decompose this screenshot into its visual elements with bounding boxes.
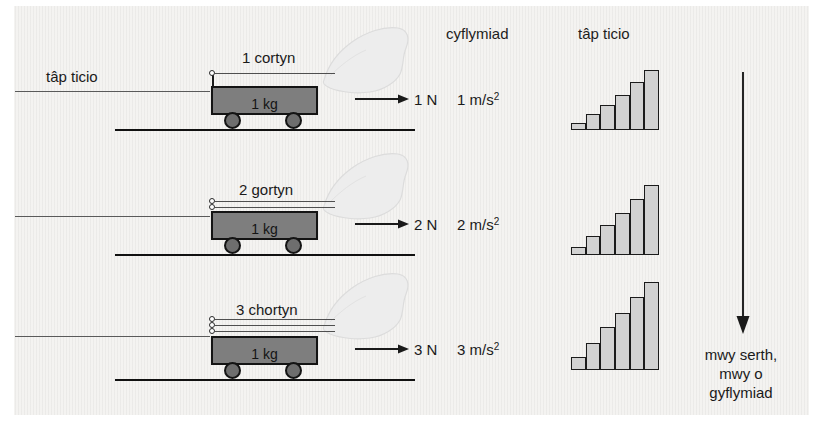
- acceleration-exponent-1: 2: [494, 91, 500, 102]
- cart-wheel-3-left: [224, 362, 241, 379]
- chart-bar: [600, 105, 615, 130]
- ticker-tape-chart-3: [571, 281, 659, 370]
- cart-mass-label-3: 1 kg: [213, 346, 316, 362]
- trend-arrow-down-icon: [730, 70, 756, 336]
- cord-line-1-1: [214, 73, 335, 74]
- acceleration-exponent-2: 2: [494, 216, 500, 227]
- cord-line-3-1: [214, 319, 335, 320]
- chart-bar: [571, 357, 586, 370]
- force-label-2: 2 N: [414, 217, 437, 232]
- cart-wheel-2-left: [224, 237, 241, 254]
- page-margin-bottom: [0, 415, 819, 425]
- cart-3: 1 kg: [211, 336, 318, 365]
- cart-wheel-2-right: [285, 237, 302, 254]
- cord-line-3-2: [214, 325, 335, 326]
- force-arrow-1: [355, 92, 410, 106]
- ticker-tape-line-1: [15, 91, 210, 92]
- ground-line-3: [115, 379, 415, 381]
- cart-wheel-1-right: [285, 112, 302, 129]
- cart-mass-label-2: 1 kg: [213, 221, 316, 237]
- ticker-tape-line-3: [15, 336, 210, 337]
- force-acceleration-diagram: cyflymiad tâp ticio tâp ticio 1 cortyn 1…: [0, 0, 819, 425]
- acceleration-label-1: 1 m/s2: [457, 92, 499, 107]
- chart-bar: [644, 282, 659, 370]
- chart-bar: [586, 114, 601, 130]
- trend-caption: mwy serth, mwy o gyflymiad: [676, 345, 806, 402]
- cord-line-2-1: [214, 201, 335, 202]
- trend-caption-line-2: mwy o: [676, 364, 806, 383]
- acceleration-exponent-3: 2: [494, 341, 500, 352]
- cord-label-2: 2 gortyn: [239, 182, 293, 197]
- acceleration-value-1: 1 m/s: [457, 91, 494, 108]
- hand-icon-1: [318, 22, 414, 100]
- column-header-acceleration: cyflymiad: [446, 26, 509, 41]
- cart-1: 1 kg: [211, 86, 318, 115]
- cord-line-2-2: [214, 207, 335, 208]
- force-arrow-2: [355, 217, 410, 231]
- chart-bar: [571, 123, 586, 130]
- ticker-tape-line-2: [15, 216, 210, 217]
- force-label-3: 3 N: [414, 342, 437, 357]
- chart-bar: [600, 225, 615, 255]
- chart-bar: [571, 247, 586, 255]
- cord-label-3: 3 chortyn: [236, 302, 298, 317]
- column-header-ticker-tape: tâp ticio: [578, 26, 630, 41]
- page-margin-top: [0, 0, 819, 6]
- label-ticker-tape-left: tâp ticio: [46, 69, 98, 84]
- cart-mass-label-1: 1 kg: [213, 96, 316, 112]
- chart-bar: [644, 70, 659, 130]
- ticker-tape-chart-2: [571, 171, 659, 255]
- chart-bar: [615, 213, 630, 255]
- page-margin-left: [0, 0, 14, 425]
- hand-icon-2: [318, 148, 414, 226]
- trend-caption-line-3: gyflymiad: [676, 383, 806, 402]
- force-arrow-3: [355, 342, 410, 356]
- cart-wheel-1-left: [224, 112, 241, 129]
- ticker-tape-chart-1: [571, 46, 659, 130]
- acceleration-value-2: 2 m/s: [457, 216, 494, 233]
- acceleration-label-2: 2 m/s2: [457, 217, 499, 232]
- chart-bar: [644, 185, 659, 255]
- force-label-1: 1 N: [414, 92, 437, 107]
- chart-bar: [630, 199, 645, 255]
- chart-bar: [615, 313, 630, 370]
- chart-bar: [586, 343, 601, 370]
- chart-bar: [615, 95, 630, 130]
- hand-icon-3: [318, 268, 414, 346]
- ground-line-2: [115, 254, 415, 256]
- acceleration-label-3: 3 m/s2: [457, 342, 499, 357]
- cord-line-3-3: [214, 331, 335, 332]
- acceleration-value-3: 3 m/s: [457, 341, 494, 358]
- chart-bar: [600, 327, 615, 370]
- chart-bar: [630, 297, 645, 370]
- cart-wheel-3-right: [285, 362, 302, 379]
- chart-bar: [586, 236, 601, 255]
- trend-caption-line-1: mwy serth,: [676, 345, 806, 364]
- ground-line-1: [115, 129, 415, 131]
- cart-2: 1 kg: [211, 211, 318, 240]
- cord-label-1: 1 cortyn: [242, 50, 295, 65]
- page-margin-right: [809, 0, 819, 425]
- chart-bar: [630, 82, 645, 130]
